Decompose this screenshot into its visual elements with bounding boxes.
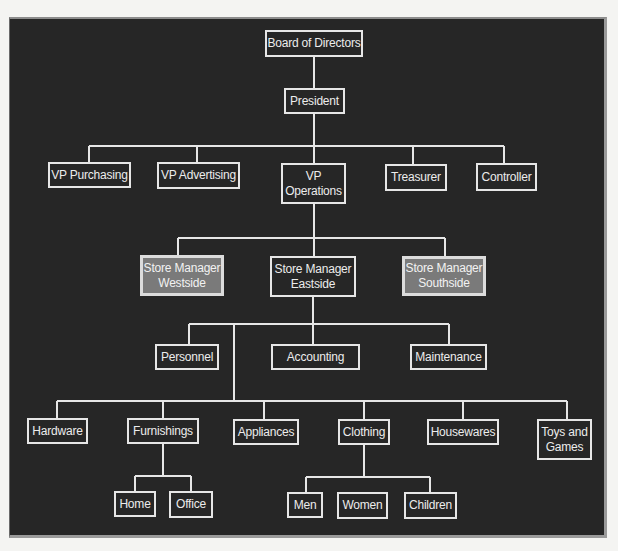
node-label: Furnishings	[133, 424, 193, 439]
node-label: Treasurer	[391, 170, 441, 185]
node-children[interactable]: Children	[404, 492, 457, 519]
node-clothing[interactable]: Clothing	[338, 419, 390, 445]
node-label: Office	[176, 497, 206, 512]
node-store-manager-eastside[interactable]: Store Manager Eastside	[270, 256, 356, 297]
node-label: Store Manager Southside	[406, 261, 483, 291]
node-label: VP Advertising	[161, 168, 236, 183]
node-hardware[interactable]: Hardware	[27, 418, 88, 444]
node-accounting[interactable]: Accounting	[271, 344, 360, 370]
node-label: Maintenance	[415, 350, 482, 365]
node-men[interactable]: Men	[287, 492, 323, 518]
node-appliances[interactable]: Appliances	[233, 419, 299, 445]
node-office[interactable]: Office	[169, 491, 213, 518]
node-label: Personnel	[161, 350, 213, 365]
node-home[interactable]: Home	[114, 491, 156, 517]
node-personnel[interactable]: Personnel	[155, 344, 219, 370]
node-vp-operations[interactable]: VP Operations	[281, 163, 346, 204]
node-label: President	[290, 94, 339, 109]
node-label: Men	[294, 498, 317, 513]
node-toys-and-games[interactable]: Toys and Games	[537, 419, 592, 460]
node-store-manager-westside[interactable]: Store Manager Westside	[140, 255, 224, 296]
node-controller[interactable]: Controller	[476, 163, 537, 191]
node-label: Store Manager Eastside	[275, 262, 352, 292]
node-label: Women	[342, 498, 382, 513]
node-label: Toys and Games	[541, 425, 587, 455]
node-label: VP Operations	[285, 169, 342, 199]
node-board-of-directors[interactable]: Board of Directors	[265, 30, 363, 57]
node-store-manager-southside[interactable]: Store Manager Southside	[402, 256, 486, 296]
node-treasurer[interactable]: Treasurer	[385, 164, 447, 191]
node-label: Home	[119, 497, 150, 512]
node-housewares[interactable]: Housewares	[427, 419, 499, 445]
node-maintenance[interactable]: Maintenance	[410, 344, 487, 370]
node-label: Accounting	[287, 350, 344, 365]
node-label: Board of Directors	[267, 36, 360, 51]
node-vp-purchasing[interactable]: VP Purchasing	[48, 162, 131, 188]
node-furnishings[interactable]: Furnishings	[127, 418, 199, 444]
node-vp-advertising[interactable]: VP Advertising	[157, 162, 240, 189]
node-label: Controller	[481, 170, 531, 185]
node-label: VP Purchasing	[51, 168, 128, 183]
node-label: Store Manager Westside	[144, 261, 221, 291]
node-label: Appliances	[238, 425, 295, 440]
node-label: Hardware	[32, 424, 82, 439]
node-president[interactable]: President	[284, 88, 345, 114]
node-label: Children	[409, 498, 452, 513]
node-women[interactable]: Women	[337, 492, 388, 519]
node-label: Clothing	[343, 425, 385, 440]
node-label: Housewares	[431, 425, 496, 440]
